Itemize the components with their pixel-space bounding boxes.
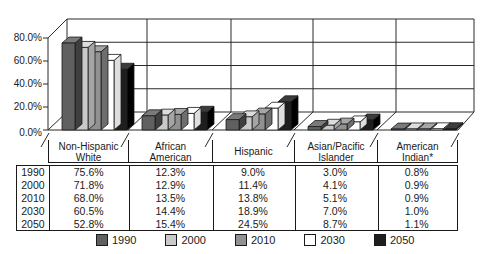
table-value-cell: 13.5% (129, 192, 213, 204)
y-axis-tick-label: 60.0% (0, 55, 42, 67)
table-value-cell: 24.5% (212, 218, 294, 230)
table-year-cell: 2010 (17, 192, 49, 204)
table-column-divider (129, 166, 130, 230)
legend-label: 2000 (181, 234, 205, 246)
legend-swatch (165, 234, 177, 246)
bar-side-2050-g0 (127, 63, 134, 130)
bar-side-1990-g0 (75, 37, 82, 130)
bar-1990-g4 (391, 129, 404, 130)
bar-2010-g4 (417, 129, 430, 130)
table-value-cell: 14.4% (129, 205, 213, 217)
table-row: 200071.8%12.9%11.4%4.1%0.9% (17, 179, 457, 191)
bar-2030-g4 (430, 129, 443, 130)
table-value-cell: 68.0% (49, 192, 129, 204)
bar-side-2000-g0 (88, 41, 95, 130)
table-value-cell: 60.5% (49, 205, 129, 217)
table-value-cell: 0.9% (376, 179, 457, 191)
chart-legend: 19902000201020302050 (96, 234, 414, 246)
data-table: 199075.6%12.3%9.0%3.0%0.8%200071.8%12.9%… (16, 165, 458, 231)
table-value-cell: 7.0% (294, 205, 377, 217)
y-axis-tick-label: 40.0% (0, 78, 42, 90)
legend-swatch (235, 234, 247, 246)
table-column-divider (213, 166, 214, 230)
legend-item-1990: 1990 (96, 234, 136, 246)
legend-label: 2030 (320, 234, 344, 246)
table-year-cell: 2030 (17, 205, 49, 217)
table-value-cell: 8.7% (294, 218, 377, 230)
table-value-cell: 9.0% (212, 166, 294, 178)
legend-swatch (96, 234, 108, 246)
category-header-cell-2: Hispanic (212, 140, 294, 163)
category-header-cell-3: Asian/Pacific Islander (294, 140, 377, 163)
legend-item-2010: 2010 (235, 234, 275, 246)
legend-label: 1990 (112, 234, 136, 246)
table-value-cell: 71.8% (49, 179, 129, 191)
table-value-cell: 3.0% (294, 166, 377, 178)
category-axis-header-row: Non-Hispanic WhiteAfrican AmericanHispan… (48, 140, 458, 163)
legend-item-2030: 2030 (304, 234, 344, 246)
category-header-cell-1: African American (128, 140, 212, 163)
bar-side-2010-g0 (101, 46, 108, 130)
bar-2000-g4 (404, 129, 417, 130)
table-year-cell: 2050 (17, 218, 49, 230)
category-header-cell-0: Non-Hispanic White (48, 140, 128, 163)
table-row: 199075.6%12.3%9.0%3.0%0.8% (17, 166, 457, 178)
bar-1990-g0 (62, 43, 75, 130)
table-row: 205052.8%15.4%24.5%8.7%1.1% (17, 218, 457, 230)
category-header-cell-4: American Indian* (377, 140, 458, 163)
table-value-cell: 12.9% (129, 179, 213, 191)
legend-label: 2050 (390, 234, 414, 246)
table-column-divider (295, 166, 296, 230)
bar-2050-g4 (443, 129, 456, 130)
table-value-cell: 1.1% (376, 218, 457, 230)
floor-right-slant (458, 112, 474, 130)
table-value-cell: 12.3% (129, 166, 213, 178)
legend-swatch (304, 234, 316, 246)
table-value-cell: 11.4% (212, 179, 294, 191)
table-value-cell: 0.9% (376, 192, 457, 204)
table-value-cell: 15.4% (129, 218, 213, 230)
table-value-cell: 75.6% (49, 166, 129, 178)
table-column-divider (49, 166, 50, 230)
table-value-cell: 4.1% (294, 179, 377, 191)
bar-1990-g2 (226, 120, 239, 130)
legend-item-2050: 2050 (374, 234, 414, 246)
axis-top-slant (48, 19, 67, 38)
table-row: 203060.5%14.4%18.9%7.0%1.0% (17, 205, 457, 217)
table-value-cell: 0.8% (376, 166, 457, 178)
y-axis-tick-label: 0.0% (0, 127, 42, 139)
table-year-cell: 2000 (17, 179, 49, 191)
table-value-cell: 52.8% (49, 218, 129, 230)
y-axis-tick-label: 20.0% (0, 101, 42, 113)
table-year-cell: 1990 (17, 166, 49, 178)
table-value-cell: 5.1% (294, 192, 377, 204)
population-projection-chart-panel: 80.0%60.0%40.0%20.0%0.0% Non-Hispanic Wh… (0, 0, 485, 254)
legend-swatch (374, 234, 386, 246)
bar-side-2030-g0 (114, 54, 121, 130)
legend-item-2000: 2000 (165, 234, 205, 246)
table-column-divider (378, 166, 379, 230)
table-row: 201068.0%13.5%13.8%5.1%0.9% (17, 192, 457, 204)
legend-label: 2010 (251, 234, 275, 246)
bar-1990-g1 (142, 116, 155, 130)
table-value-cell: 1.0% (376, 205, 457, 217)
table-value-cell: 18.9% (212, 205, 294, 217)
bar-1990-g3 (308, 127, 321, 130)
y-axis-tick-label: 80.0% (0, 32, 42, 44)
table-value-cell: 13.8% (212, 192, 294, 204)
